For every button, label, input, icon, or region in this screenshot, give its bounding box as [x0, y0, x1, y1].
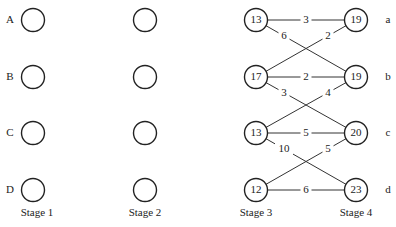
edge-weight: 6 — [303, 183, 309, 195]
row-label: B — [6, 70, 13, 82]
stage-node — [22, 179, 45, 202]
row-label: A — [6, 13, 14, 25]
network-diagram: 1317131219192023 36223451056ABCDStage 1S… — [0, 0, 396, 227]
edge-weight: 6 — [281, 29, 287, 41]
node-value: 13 — [251, 126, 263, 138]
stage-node — [22, 122, 45, 145]
node-value: 19 — [351, 13, 363, 25]
node-value: 17 — [251, 70, 263, 82]
row-label: a — [386, 13, 391, 25]
stage-node — [22, 9, 45, 32]
row-label: D — [6, 183, 14, 195]
edge-weight: 3 — [281, 86, 287, 98]
row-label: C — [6, 126, 13, 138]
stage-label: Stage 2 — [129, 206, 162, 218]
edge-weight: 10 — [279, 142, 291, 154]
stage-node — [134, 66, 157, 89]
edge-weight: 2 — [325, 29, 331, 41]
node-value: 13 — [251, 13, 263, 25]
stage-node — [22, 66, 45, 89]
row-label: d — [385, 183, 391, 195]
stage-label: Stage 4 — [340, 206, 373, 218]
edges-layer — [256, 20, 356, 190]
row-label: c — [386, 126, 391, 138]
stage-node — [134, 9, 157, 32]
nodes-layer: 1317131219192023 — [22, 9, 368, 202]
stage-node — [134, 179, 157, 202]
labels-layer: 36223451056ABCDStage 1Stage 2Stage 3abcd… — [6, 13, 391, 218]
edge-weight: 4 — [325, 86, 331, 98]
edge-weight: 3 — [303, 13, 309, 25]
row-label: b — [385, 70, 391, 82]
node-value: 19 — [351, 70, 363, 82]
edge-weight: 5 — [325, 142, 331, 154]
stage-label: Stage 1 — [21, 206, 54, 218]
stage-node — [134, 122, 157, 145]
node-value: 20 — [351, 126, 363, 138]
edge-weight: 2 — [303, 70, 309, 82]
node-value: 12 — [251, 183, 262, 195]
edge-weight: 5 — [303, 126, 309, 138]
node-value: 23 — [351, 183, 363, 195]
stage-label: Stage 3 — [240, 206, 273, 218]
